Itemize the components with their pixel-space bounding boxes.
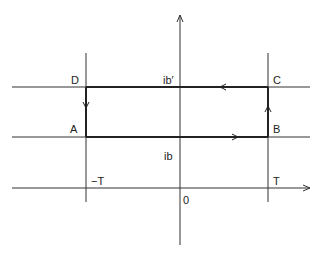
label-C: C	[273, 75, 281, 86]
label-D: D	[71, 75, 79, 86]
label-minus-T: −T	[91, 176, 104, 187]
label-ib-prime: ib′	[163, 75, 174, 86]
label-B: B	[273, 124, 280, 135]
label-origin: 0	[183, 195, 189, 206]
contour-diagram	[0, 0, 320, 255]
label-ib: ib	[164, 151, 173, 162]
label-A: A	[70, 124, 77, 135]
label-T: T	[273, 176, 280, 187]
